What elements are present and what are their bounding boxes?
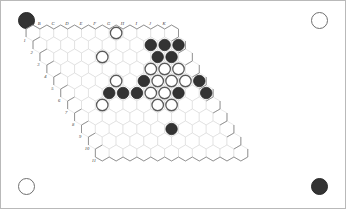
stone-black-K2[interactable] xyxy=(173,39,185,51)
stone-black-G9[interactable] xyxy=(166,123,178,135)
column-label-J: J xyxy=(149,21,152,26)
row-label-5: 5 xyxy=(51,86,54,91)
stone-white-H5[interactable] xyxy=(152,75,164,87)
stone-black-I6[interactable] xyxy=(173,87,185,99)
row-label-2: 2 xyxy=(30,50,33,55)
stone-white-H4[interactable] xyxy=(145,63,157,75)
stone-black-K5[interactable] xyxy=(194,75,206,87)
stone-white-H7[interactable] xyxy=(166,99,178,111)
stone-white-G6[interactable] xyxy=(145,87,157,99)
stone-black-J2[interactable] xyxy=(159,39,171,51)
stone-black-E6[interactable] xyxy=(117,87,129,99)
hex-board-app: ABCDEFGHIJK1234567891011 xyxy=(0,0,346,209)
column-label-A: A xyxy=(23,21,27,26)
stone-black-J3[interactable] xyxy=(166,51,178,63)
stone-white-J4[interactable] xyxy=(173,63,185,75)
column-label-K: K xyxy=(161,21,166,26)
column-label-H: H xyxy=(120,21,125,26)
stone-black-G5[interactable] xyxy=(138,75,150,87)
stone-white-I4[interactable] xyxy=(159,63,171,75)
stone-white-E3[interactable] xyxy=(97,51,109,63)
column-label-B: B xyxy=(38,21,41,26)
row-label-6: 6 xyxy=(58,98,61,103)
stone-black-D6[interactable] xyxy=(103,87,115,99)
row-label-1: 1 xyxy=(23,38,25,43)
row-label-8: 8 xyxy=(72,122,75,127)
row-label-4: 4 xyxy=(44,74,47,79)
column-label-C: C xyxy=(52,21,56,26)
row-label-7: 7 xyxy=(65,110,68,115)
stone-white-G7[interactable] xyxy=(152,99,164,111)
row-label-11: 11 xyxy=(92,158,96,163)
stone-white-H6[interactable] xyxy=(159,87,171,99)
stone-white-I5[interactable] xyxy=(166,75,178,87)
column-label-E: E xyxy=(78,21,82,26)
stone-white-E5[interactable] xyxy=(110,75,122,87)
column-label-I: I xyxy=(134,21,137,26)
stone-black-K6[interactable] xyxy=(200,87,212,99)
column-label-G: G xyxy=(107,21,111,26)
row-label-10: 10 xyxy=(85,146,90,151)
stone-white-C7[interactable] xyxy=(97,99,109,111)
column-label-D: D xyxy=(64,21,69,26)
row-label-9: 9 xyxy=(79,134,82,139)
column-label-F: F xyxy=(92,21,96,26)
stone-black-F6[interactable] xyxy=(131,87,143,99)
stone-black-I2[interactable] xyxy=(145,39,157,51)
stone-black-I3[interactable] xyxy=(152,51,164,63)
stone-white-J5[interactable] xyxy=(180,75,192,87)
hex-board-grid[interactable]: ABCDEFGHIJK1234567891011 xyxy=(0,0,346,209)
row-label-3: 3 xyxy=(37,62,40,67)
stone-white-G1[interactable] xyxy=(110,27,122,39)
